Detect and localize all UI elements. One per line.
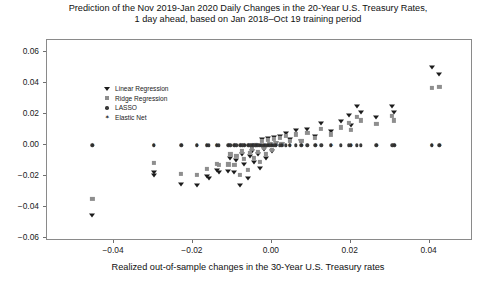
data-point xyxy=(216,163,220,167)
chart-legend: Linear RegressionRidge RegressionLASSO✶E… xyxy=(99,82,173,124)
square-icon xyxy=(102,94,112,104)
chart-title-line-2: 1 day ahead, based on Jan 2018–Oct 19 tr… xyxy=(0,14,496,25)
legend-label: Elastic Net xyxy=(115,113,147,123)
data-point xyxy=(240,149,244,153)
legend-item-linear-regression: Linear Regression xyxy=(102,84,169,94)
data-point: ✶ xyxy=(313,143,318,148)
x-axis-tick-label: 0.00 xyxy=(248,245,294,255)
data-point: ✶ xyxy=(429,143,434,148)
data-point xyxy=(90,197,94,201)
x-axis-tick xyxy=(271,240,272,243)
data-points-layer: ✶✶✶✶✶✶✶✶✶✶✶✶✶✶✶✶✶✶✶✶✶✶✶✶✶✶✶✶ xyxy=(47,40,471,239)
y-axis-tick xyxy=(43,82,46,83)
data-point: ✶ xyxy=(437,143,442,148)
chart-title: Prediction of the Nov 2019-Jan 2020 Dail… xyxy=(0,3,496,26)
data-point xyxy=(355,143,358,146)
data-point: ✶ xyxy=(348,143,353,148)
y-axis-tick-label: 0.02 xyxy=(5,108,39,118)
data-point xyxy=(306,143,309,146)
data-point xyxy=(374,122,378,126)
x-axis-tick-label: −0.02 xyxy=(169,245,215,255)
data-point xyxy=(270,148,274,152)
data-point xyxy=(358,118,362,122)
y-axis-tick-label: −0.06 xyxy=(5,232,39,242)
x-axis-tick xyxy=(429,240,430,243)
data-point xyxy=(231,171,237,175)
legend-item-lasso: LASSO xyxy=(102,103,169,113)
data-point xyxy=(436,72,442,76)
legend-label: LASSO xyxy=(115,103,137,113)
star-icon: ✶ xyxy=(102,113,112,123)
data-point: ✶ xyxy=(329,143,334,148)
y-axis-tick-label: 0.06 xyxy=(5,46,39,56)
data-point xyxy=(263,157,269,161)
data-point xyxy=(305,131,309,135)
data-point: ✶ xyxy=(287,143,292,148)
data-point: ✶ xyxy=(226,143,231,148)
data-point: ✶ xyxy=(299,143,304,148)
data-point xyxy=(264,152,268,156)
y-axis-tick xyxy=(43,175,46,176)
y-axis-tick-label: −0.02 xyxy=(5,170,39,180)
data-point xyxy=(242,157,246,161)
circle-icon xyxy=(102,103,112,113)
data-point xyxy=(437,85,441,89)
x-axis-tick-label: 0.04 xyxy=(406,245,452,255)
data-point: ✶ xyxy=(374,143,379,148)
data-point: ✶ xyxy=(179,143,184,148)
data-point xyxy=(178,182,184,186)
chart-title-line-1: Prediction of the Nov 2019-Jan 2020 Dail… xyxy=(69,3,428,13)
data-point xyxy=(195,173,199,177)
data-point xyxy=(294,143,297,146)
data-point xyxy=(349,128,353,132)
data-point xyxy=(389,104,395,108)
data-point xyxy=(359,143,362,146)
data-point xyxy=(205,167,209,171)
y-axis-tick xyxy=(43,237,46,238)
data-point xyxy=(429,65,435,69)
y-axis-tick-label: 0.00 xyxy=(5,139,39,149)
data-point: ✶ xyxy=(90,143,95,148)
data-point xyxy=(338,120,344,124)
data-point xyxy=(151,161,155,165)
data-point xyxy=(245,177,251,181)
data-point xyxy=(318,122,324,126)
data-point xyxy=(373,116,379,120)
data-point: ✶ xyxy=(204,143,209,148)
data-point: ✶ xyxy=(273,143,278,148)
data-point xyxy=(238,172,242,176)
data-point xyxy=(284,134,288,138)
data-point xyxy=(429,86,433,90)
data-point xyxy=(228,152,232,156)
data-point xyxy=(258,160,262,164)
legend-label: Ridge Regression xyxy=(115,94,167,104)
y-axis-tick xyxy=(43,144,46,145)
data-point xyxy=(347,121,351,125)
y-axis-tick xyxy=(43,206,46,207)
data-point xyxy=(237,183,243,187)
data-point xyxy=(256,150,260,154)
data-point xyxy=(339,143,342,146)
data-point xyxy=(246,168,250,172)
data-point xyxy=(194,183,200,187)
data-point xyxy=(226,162,230,166)
y-axis-tick xyxy=(43,113,46,114)
x-axis-label: Realized out-of-sample changes in the 30… xyxy=(0,262,496,272)
data-point: ✶ xyxy=(279,143,284,148)
data-point xyxy=(354,105,360,109)
y-axis-tick-label: 0.04 xyxy=(5,77,39,87)
legend-item-ridge-regression: Ridge Regression xyxy=(102,94,169,104)
data-point xyxy=(252,155,256,159)
x-axis-tick xyxy=(113,240,114,243)
data-point xyxy=(329,132,333,136)
legend-item-elastic-net: ✶Elastic Net xyxy=(102,113,169,123)
data-point xyxy=(248,151,252,155)
data-point xyxy=(89,214,95,218)
data-point xyxy=(392,118,396,122)
data-point xyxy=(216,171,222,175)
scatter-figure: Prediction of the Nov 2019-Jan 2020 Dail… xyxy=(0,0,496,284)
data-point xyxy=(319,127,323,131)
x-axis-tick-label: 0.02 xyxy=(327,245,373,255)
data-point xyxy=(257,167,263,171)
y-axis-tick-label: −0.04 xyxy=(5,201,39,211)
